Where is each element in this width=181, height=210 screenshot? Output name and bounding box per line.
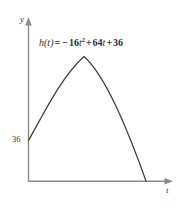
plot-area <box>0 0 181 210</box>
parabola-figure: y t 36 h(t)=−16t2+64t+36 <box>0 0 181 210</box>
y-axis-arrowhead <box>25 17 32 26</box>
equation-term2-sign: + <box>85 37 93 48</box>
y-intercept-tick-label: 36 <box>12 135 21 144</box>
equation-term2-coefficient: 64 <box>93 37 103 48</box>
y-axis-label: y <box>20 15 24 24</box>
parabola-curve <box>29 57 147 182</box>
equation-term3-sign: + <box>105 37 113 48</box>
equation-annotation: h(t)=−16t2+64t+36 <box>39 37 123 48</box>
equation-term3-constant: 36 <box>113 37 123 48</box>
t-axis-label: t <box>166 186 169 195</box>
equation-term1-coefficient: 16 <box>69 37 79 48</box>
equation-term1-sign: − <box>61 37 69 48</box>
t-axis-arrowhead <box>165 178 174 185</box>
